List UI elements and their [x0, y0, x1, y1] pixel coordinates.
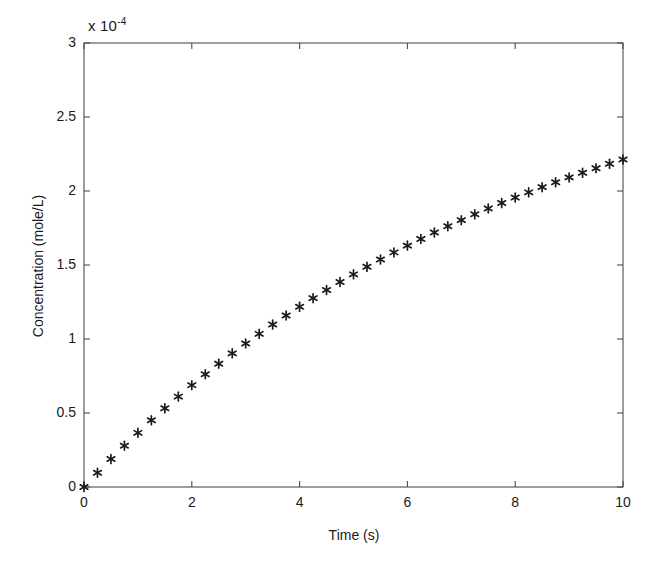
asterisk-marker — [592, 164, 600, 173]
asterisk-marker — [296, 302, 304, 311]
y-tick-label: 1 — [36, 330, 76, 346]
axes-frame — [84, 43, 623, 487]
plot-area — [0, 0, 648, 563]
asterisk-marker — [94, 468, 102, 477]
y-tick-label: 0.5 — [36, 404, 76, 420]
asterisk-marker — [431, 228, 439, 237]
x-tick-label: 10 — [603, 494, 643, 510]
asterisk-marker — [538, 183, 546, 192]
plot-box — [84, 43, 623, 487]
asterisk-marker — [215, 359, 223, 368]
asterisk-marker — [188, 381, 196, 390]
asterisk-marker — [323, 286, 331, 295]
asterisk-marker — [457, 216, 465, 225]
x-tick-label: 2 — [172, 494, 212, 510]
y-tick-label: 3 — [36, 34, 76, 50]
asterisk-marker — [269, 320, 277, 329]
data-markers — [80, 155, 627, 491]
asterisk-marker — [134, 428, 142, 437]
x-tick-label: 6 — [387, 494, 427, 510]
asterisk-marker — [390, 248, 398, 257]
asterisk-marker — [255, 329, 263, 338]
asterisk-marker — [121, 441, 129, 450]
y-tick-label: 0 — [36, 478, 76, 494]
asterisk-marker — [565, 173, 573, 182]
asterisk-marker — [201, 370, 209, 379]
asterisk-marker — [579, 168, 587, 177]
x-tick-label: 4 — [280, 494, 320, 510]
asterisk-marker — [484, 204, 492, 213]
asterisk-marker — [228, 349, 236, 358]
asterisk-marker — [309, 294, 317, 303]
asterisk-marker — [511, 193, 519, 202]
asterisk-marker — [404, 241, 412, 250]
asterisk-marker — [336, 278, 344, 287]
chart-figure: x 10-4 Concentration (mole/L) Time (s) 0… — [0, 0, 648, 563]
asterisk-marker — [552, 178, 560, 187]
asterisk-marker — [498, 199, 506, 208]
x-tick-label: 0 — [64, 494, 104, 510]
asterisk-marker — [107, 455, 115, 464]
asterisk-marker — [606, 159, 614, 168]
asterisk-marker — [175, 392, 183, 401]
asterisk-marker — [282, 311, 290, 320]
asterisk-marker — [471, 210, 479, 219]
axis-ticks — [84, 43, 623, 487]
asterisk-marker — [525, 188, 533, 197]
asterisk-marker — [377, 255, 385, 264]
asterisk-marker — [417, 235, 425, 244]
asterisk-marker — [619, 155, 627, 164]
y-tick-label: 2.5 — [36, 108, 76, 124]
asterisk-marker — [444, 222, 452, 231]
asterisk-marker — [161, 404, 169, 413]
asterisk-marker — [363, 262, 371, 271]
y-tick-label: 2 — [36, 182, 76, 198]
y-tick-label: 1.5 — [36, 256, 76, 272]
asterisk-marker — [350, 270, 358, 279]
asterisk-marker — [242, 339, 250, 348]
asterisk-marker — [148, 416, 156, 425]
x-tick-label: 8 — [495, 494, 535, 510]
